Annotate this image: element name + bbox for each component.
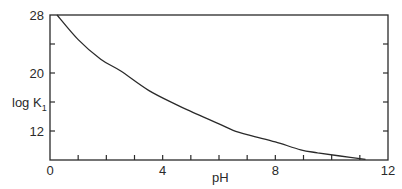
y-axis-ticks (50, 44, 388, 131)
y-axis-tick-labels: 282012 (30, 8, 44, 139)
x-tick-label: 8 (272, 163, 279, 178)
plot-border (50, 15, 388, 160)
x-tick-label: 12 (381, 163, 395, 178)
x-axis-ticks (78, 155, 360, 160)
plot-frame (50, 15, 388, 160)
x-axis-label: pH (212, 170, 229, 185)
y-axis-label-main: log K (12, 95, 42, 110)
chart: 04812 282012 pH log K1 (0, 0, 402, 189)
x-tick-label: 4 (159, 163, 166, 178)
y-tick-label: 20 (30, 66, 44, 81)
y-tick-label: 12 (30, 124, 44, 139)
y-axis-label-subscript: 1 (42, 103, 47, 113)
y-tick-label: 28 (30, 8, 44, 23)
x-tick-label: 0 (46, 163, 53, 178)
y-axis-label: log K1 (12, 95, 47, 113)
data-curve (57, 15, 366, 159)
